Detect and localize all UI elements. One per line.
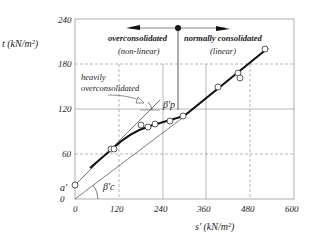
beta-c-arc xyxy=(93,185,98,199)
svg-text:240: 240 xyxy=(154,204,168,214)
svg-text:0: 0 xyxy=(60,194,65,204)
normally-consolidated-label: normally consolidated xyxy=(184,33,262,43)
heavily-label: heavily xyxy=(81,72,106,82)
x-axis-label: s' (kN/m²) xyxy=(195,221,235,233)
beta-p-label: β'p xyxy=(162,99,175,110)
svg-text:180: 180 xyxy=(58,59,72,69)
beta-c-line xyxy=(75,116,185,199)
linear-label: (linear) xyxy=(210,46,236,56)
overconsolidated-label: overconsolidated xyxy=(108,33,168,43)
beta-c-label: β'c xyxy=(102,181,115,192)
svg-text:0: 0 xyxy=(73,204,78,214)
arrow-left-icon xyxy=(126,25,140,30)
pointer-line xyxy=(108,95,141,101)
non-linear-label: (non-linear) xyxy=(118,46,160,56)
svg-text:480: 480 xyxy=(241,204,255,214)
y-axis-ticks: 240 180 120 60 0 xyxy=(58,15,72,204)
svg-text:120: 120 xyxy=(58,104,72,114)
shear-strength-diagram: 240 180 120 60 0 0 120 240 360 480 600 t… xyxy=(0,0,312,247)
x-axis-ticks: 0 120 240 360 480 600 xyxy=(73,204,299,214)
svg-text:360: 360 xyxy=(196,204,211,214)
svg-text:600: 600 xyxy=(285,204,299,214)
svg-text:60: 60 xyxy=(62,149,72,159)
arrow-right-icon xyxy=(216,26,230,31)
heavily-label-2: overconsolidated xyxy=(81,83,140,93)
intercept-label: a' xyxy=(60,182,68,193)
data-points xyxy=(72,46,268,188)
svg-text:120: 120 xyxy=(110,204,124,214)
svg-text:240: 240 xyxy=(58,15,72,25)
y-axis-label: t (kN/m²) xyxy=(2,38,39,50)
